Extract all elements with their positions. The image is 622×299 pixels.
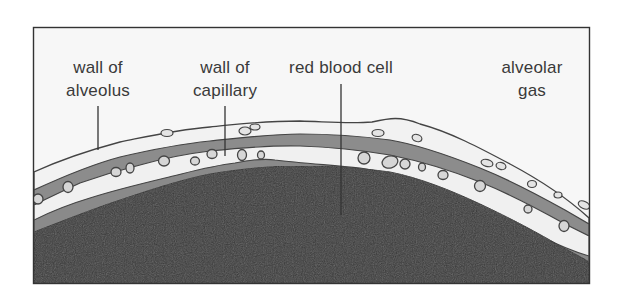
label-line: capillary <box>193 79 257 102</box>
diagram-stage: wall of alveolus wall of capillary red b… <box>0 0 622 299</box>
label-line: wall of <box>193 56 257 79</box>
label-wall-of-alveolus: wall of alveolus <box>66 56 130 102</box>
label-red-blood-cell: red blood cell <box>289 56 393 79</box>
label-line: gas <box>501 79 562 102</box>
alveolar-capillary-diagram <box>0 0 622 299</box>
label-line: alveolar <box>501 56 562 79</box>
label-line: alveolus <box>66 79 130 102</box>
label-line: red blood cell <box>289 56 393 79</box>
label-line: wall of <box>66 56 130 79</box>
label-wall-of-capillary: wall of capillary <box>193 56 257 102</box>
label-alveolar-gas: alveolar gas <box>501 56 562 102</box>
